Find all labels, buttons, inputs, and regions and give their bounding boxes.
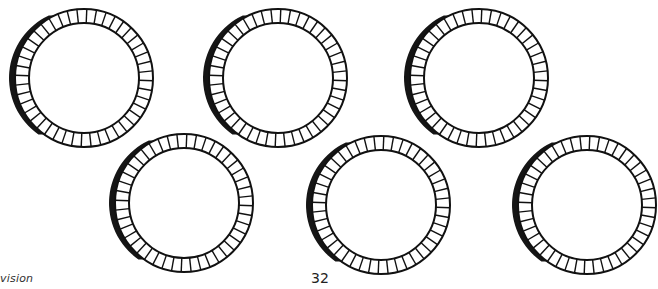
ring-6-icon	[512, 136, 656, 274]
footer-label: vision	[0, 272, 33, 285]
ring-3-icon	[404, 9, 548, 147]
ring-4-icon	[109, 134, 253, 272]
page-number: 32	[311, 270, 329, 286]
ring-2-icon	[203, 9, 347, 147]
ring-5-icon	[306, 136, 450, 274]
ring-illustrations	[0, 0, 658, 289]
ring-1-icon	[9, 9, 153, 147]
